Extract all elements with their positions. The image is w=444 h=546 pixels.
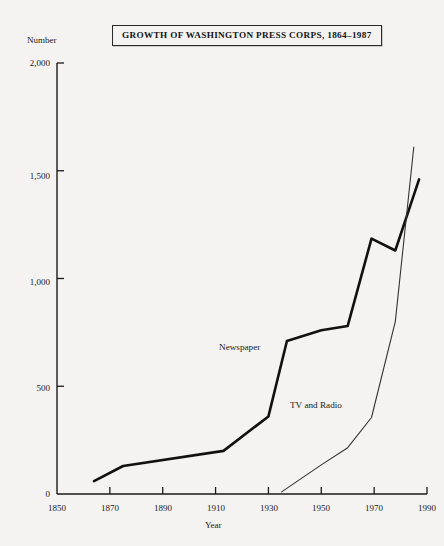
y-tick-label-1500: 1,500 — [8, 171, 50, 181]
x-axis-caption: Year — [205, 520, 222, 530]
chart-title-box: GROWTH OF WASHINGTON PRESS CORPS, 1864–1… — [112, 25, 382, 46]
data-series — [94, 147, 419, 492]
x-tick-label-1970: 1970 — [354, 503, 394, 513]
series-line-tv-and-radio — [282, 147, 414, 492]
plot-area — [0, 0, 444, 546]
y-tick-label-1000: 1,000 — [8, 277, 50, 287]
chart-title: GROWTH OF WASHINGTON PRESS CORPS, 1864–1… — [122, 30, 372, 40]
y-tick-label-500: 500 — [8, 383, 50, 393]
y-tick-label-0: 0 — [8, 489, 50, 499]
x-tick-label-1930: 1930 — [249, 503, 289, 513]
y-tick-label-2000: 2,000 — [8, 58, 50, 68]
y-axis-caption: Number — [27, 35, 57, 45]
axis-lines — [57, 63, 427, 494]
series-label-newspaper: Newspaper — [219, 342, 260, 352]
x-tick-label-1910: 1910 — [196, 503, 236, 513]
x-tick-label-1870: 1870 — [90, 503, 130, 513]
series-label-tv-and-radio: TV and Radio — [290, 400, 342, 410]
x-tick-label-1890: 1890 — [143, 503, 183, 513]
x-tick-label-1990: 1990 — [407, 503, 444, 513]
axis-ticks — [57, 63, 427, 494]
chart-root: GROWTH OF WASHINGTON PRESS CORPS, 1864–1… — [0, 0, 444, 546]
series-line-newspaper — [94, 179, 419, 481]
x-tick-label-1950: 1950 — [301, 503, 341, 513]
x-tick-label-1850: 1850 — [37, 503, 77, 513]
